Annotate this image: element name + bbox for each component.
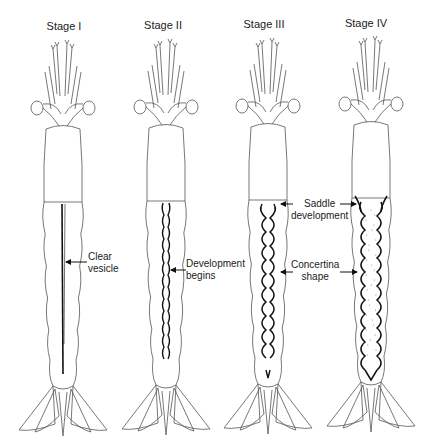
abdomen-segment [249,232,287,264]
antennae [45,40,81,109]
label-clear-vesicle: Clear vesicle [88,251,119,275]
eye-right-icon [186,100,198,114]
stipple-dot [370,209,371,210]
label-saddle-development-line1: Saddle [291,198,348,210]
abdomen-segment [253,328,284,358]
carapace [44,126,83,203]
label-concertina-shape-line1: Concertina [291,259,339,271]
abdomen-segment [353,262,389,294]
stipple-dot [373,224,374,225]
carapace [147,125,186,202]
antennae [148,39,184,108]
seminal-vesicle-wavy [162,203,170,359]
carapace [249,124,288,201]
stipple-dot [375,294,376,295]
shrimp-stage-2 [122,39,210,435]
eye-left-icon [134,100,146,114]
seminal-vesicle-concertina [261,204,276,378]
label-clear-vesicle-line1: Clear [88,251,119,263]
abdomen-segment [250,264,286,296]
stage-title-1: Stage I [47,20,82,32]
seminal-vesicle-full [355,196,387,380]
eye-left-icon [339,97,351,111]
stipple-dot [375,254,376,255]
label-concertina-shape-line2: shape [291,271,339,283]
stipple-dot [374,269,375,270]
abdomen-segment [354,294,387,326]
stipple-dot [373,324,374,325]
stipple-dot [367,289,368,290]
abdomen-segment [351,198,392,230]
stipple-dot [371,284,372,285]
tail-fan [224,384,312,434]
abdomen-segment [248,200,289,232]
abdomen-segment [146,201,187,233]
stage-title-4: Stage IV [345,17,387,29]
stipple-dot [372,319,373,320]
stipple-dot [365,274,366,275]
abdomen-segment [151,329,182,359]
stipple-dot [367,344,368,345]
abdomen-segment [352,230,390,262]
shrimp-stage-1 [19,40,107,436]
tail-fan [19,386,107,436]
stipple-dot [369,244,370,245]
stipple-dot [371,264,372,265]
stipple-dot [375,349,376,350]
stipple-dot [367,354,368,355]
stipple-dot [368,249,369,250]
tail-fan [327,382,415,432]
abdomen-segment [147,233,185,265]
label-development-begins: Development begins [186,258,245,282]
eye-left-icon [236,99,248,113]
antennae [250,38,286,107]
label-saddle-development-line2: development [291,210,348,222]
eye-right-icon [288,99,300,113]
stage-title-2: Stage II [144,19,182,31]
abdomen-segment [251,296,284,328]
tail-fan [122,385,210,435]
antennae [353,36,389,105]
shrimp-stages-figure [0,0,445,445]
stipple-dot [375,239,376,240]
seminal-vesicle-straight [62,204,65,374]
label-development-begins-line2: begins [186,270,245,282]
eye-right-icon [391,97,403,111]
stipple-dot [365,219,366,220]
abdomen-segment [356,326,387,356]
label-clear-vesicle-line2: vesicle [88,263,119,275]
shrimp-stage-3 [224,38,312,434]
label-development-begins-line1: Development [186,258,245,270]
stipple-dot [374,279,375,280]
stipple-dot [366,314,367,315]
stipple-dot [375,309,376,310]
carapace [352,122,391,199]
shrimp-stage-4 [327,36,415,432]
label-concertina-shape: Concertina shape [291,259,339,283]
stipple-dot [366,259,367,260]
eye-left-icon [31,101,43,115]
stipple-dot [369,304,370,305]
stipple-dot [372,229,373,230]
abdomen-segment [43,202,84,234]
stipple-dot [375,334,376,335]
eye-right-icon [83,101,95,115]
stipple-dot [366,329,367,330]
label-saddle-development: Saddle development [291,198,348,222]
stipple-dot [368,299,369,300]
abdomen-segment [149,297,182,329]
stipple-dot [370,339,371,340]
stipple-dot [374,214,375,215]
stipple-dot [366,234,367,235]
stage-title-3: Stage III [244,18,285,30]
